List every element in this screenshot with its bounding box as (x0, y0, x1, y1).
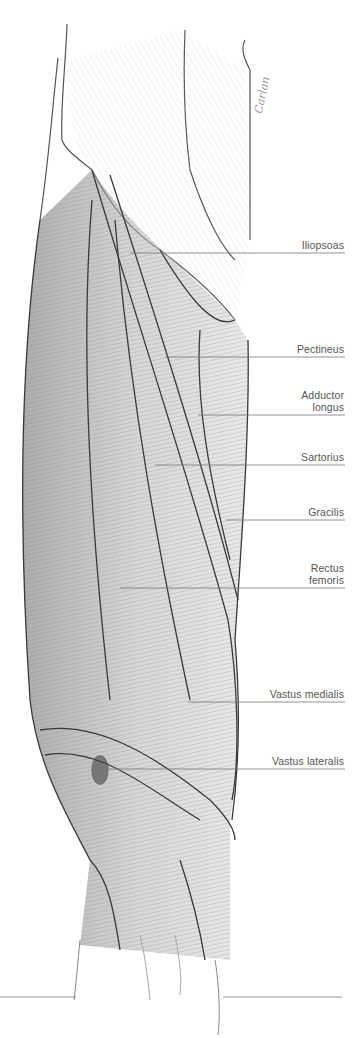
thigh-muscle-illustration (0, 0, 358, 1038)
label-gracilis: Gracilis (308, 506, 344, 518)
label-adductor-longus: Adductor longus (301, 389, 344, 413)
label-vastus-lateralis: Vastus lateralis (272, 755, 344, 767)
label-sartorius: Sartorius (301, 451, 344, 463)
label-rectus-femoris: Rectus femoris (309, 562, 344, 586)
label-pectineus: Pectineus (297, 343, 344, 355)
label-vastus-medialis: Vastus medialis (270, 688, 344, 700)
label-iliopsoas: Iliopsoas (302, 239, 344, 251)
